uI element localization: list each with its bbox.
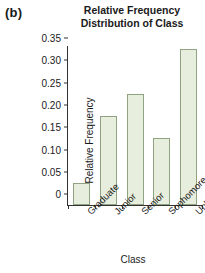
- y-axis-tick-mark: [64, 60, 68, 61]
- x-axis-tick-mark: [202, 205, 203, 209]
- y-axis-tick: 0.25: [42, 77, 68, 88]
- y-axis-tick-label: 0: [55, 189, 64, 200]
- bar: [127, 94, 144, 205]
- y-axis-tick-mark: [64, 38, 68, 39]
- y-axis-tick: 0.10: [42, 144, 68, 155]
- y-axis-tick-label: 0.15: [42, 122, 64, 133]
- x-axis-tick-mark: [148, 205, 149, 209]
- figure-panel: (b) Relative Frequency Distribution of C…: [0, 0, 205, 273]
- y-axis-tick-mark: [64, 127, 68, 128]
- y-axis-tick-label: 0.25: [42, 77, 64, 88]
- x-axis-tick-mark: [95, 205, 96, 209]
- x-axis-tick-mark: [175, 205, 176, 209]
- y-axis-tick-label: 0.05: [42, 166, 64, 177]
- y-axis-tick: 0.20: [42, 100, 68, 111]
- y-axis-tick-mark: [64, 105, 68, 106]
- y-axis-tick-label: 0.35: [42, 33, 64, 44]
- chart-title: Relative Frequency Distribution of Class: [62, 4, 202, 29]
- x-axis-tick-mark: [122, 205, 123, 209]
- y-axis-tick: 0.30: [42, 55, 68, 66]
- y-axis-tick: 0.15: [42, 122, 68, 133]
- y-axis-tick: 0.35: [42, 33, 68, 44]
- y-axis-tick-label: 0.10: [42, 144, 64, 155]
- panel-label: (b): [5, 5, 22, 20]
- y-axis-tick-label: 0.30: [42, 55, 64, 66]
- y-axis-tick-mark: [64, 82, 68, 83]
- y-axis-title: Relative Frequency: [84, 91, 95, 191]
- chart-title-line-2: Distribution of Class: [62, 17, 202, 30]
- plot-area: 00.050.100.150.200.250.300.35 GraduateJu…: [68, 47, 202, 205]
- y-axis-tick-mark: [64, 171, 68, 172]
- y-axis-tick-label: 0.20: [42, 100, 64, 111]
- x-axis-tick-mark: [68, 205, 69, 209]
- y-axis-tick: 0: [55, 189, 68, 200]
- x-axis-title: Class: [100, 254, 166, 265]
- y-axis-tick-mark: [64, 194, 68, 195]
- y-axis-tick-mark: [64, 149, 68, 150]
- chart-title-line-1: Relative Frequency: [62, 4, 202, 17]
- y-axis-tick: 0.05: [42, 166, 68, 177]
